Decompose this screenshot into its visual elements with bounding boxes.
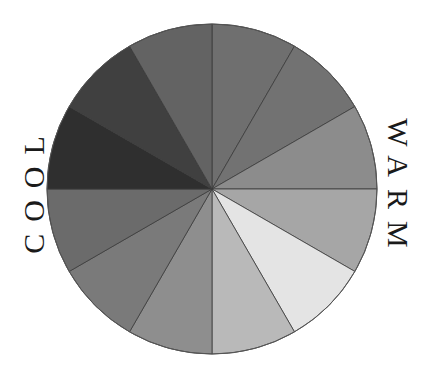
warm-label: WARM xyxy=(383,118,413,259)
cool-label: COOL xyxy=(19,124,49,254)
color-wheel-graphic xyxy=(0,0,424,378)
color-wheel xyxy=(0,0,424,378)
